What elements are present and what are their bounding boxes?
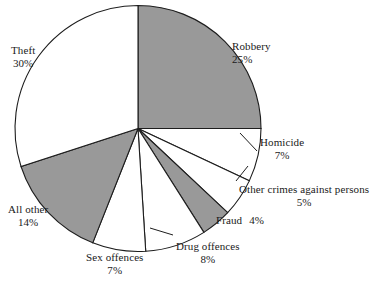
pie-label-drug-offences: Drug offences8%	[176, 240, 240, 266]
pie-label-name-fraud: Fraud	[216, 214, 242, 226]
pie-slice-robbery[interactable]	[138, 6, 261, 129]
pie-label-percent-robbery: 25%	[232, 53, 271, 66]
pie-label-name-all-other: All other	[8, 203, 48, 216]
pie-label-percent-theft: 30%	[11, 57, 35, 70]
pie-label-theft: Theft30%	[11, 44, 35, 70]
pie-label-sex-offences: Sex offences7%	[86, 251, 144, 277]
pie-chart: Robbery25%Homicide7%Other crimes against…	[0, 0, 374, 282]
pie-label-percent-sex-offences: 7%	[86, 264, 144, 277]
pie-label-percent-fraud: 4%	[249, 214, 264, 226]
pie-label-all-other: All other14%	[8, 203, 48, 229]
pie-label-name-sex-offences: Sex offences	[86, 251, 144, 264]
pie-label-other-crimes-against-persons: Other crimes against persons5%	[239, 183, 369, 209]
pie-label-robbery: Robbery25%	[232, 40, 271, 66]
pie-label-name-homicide: Homicide	[260, 136, 304, 149]
pie-label-name-other-crimes-against-persons: Other crimes against persons	[239, 183, 369, 196]
pie-label-name-drug-offences: Drug offences	[176, 240, 240, 253]
pie-label-name-robbery: Robbery	[232, 40, 271, 53]
pie-label-percent-all-other: 14%	[8, 216, 48, 229]
pie-label-fraud: Fraud4%	[216, 214, 264, 227]
pie-label-homicide: Homicide7%	[260, 136, 304, 162]
pie-label-percent-other-crimes-against-persons: 5%	[239, 196, 369, 209]
pie-label-percent-drug-offences: 8%	[176, 253, 240, 266]
pie-label-name-theft: Theft	[11, 44, 35, 57]
pie-label-percent-homicide: 7%	[260, 149, 304, 162]
